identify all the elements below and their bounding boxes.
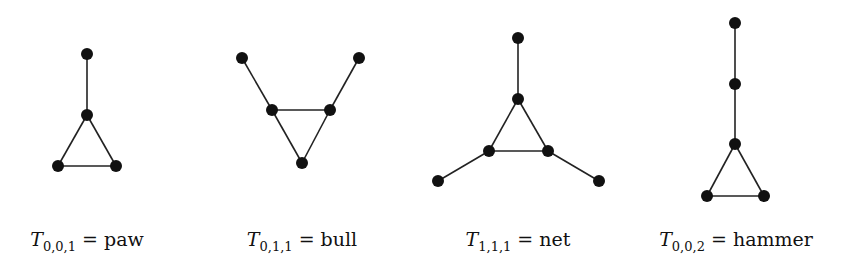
vertex: [512, 32, 524, 44]
vertex: [353, 52, 365, 64]
vertex: [729, 138, 741, 150]
edge: [272, 110, 302, 163]
label-paw: T0,0,1 = paw: [30, 228, 144, 254]
vertex: [701, 190, 713, 202]
vertex: [593, 175, 605, 187]
graph-paw: [52, 48, 122, 172]
graph-name: paw: [104, 228, 144, 250]
vertex: [110, 160, 122, 172]
graph-bull: [236, 52, 365, 169]
edge: [518, 99, 548, 151]
edge: [87, 115, 116, 166]
vertex: [729, 17, 741, 29]
edge: [548, 151, 599, 181]
graph-hammer: [701, 17, 770, 202]
label-net: T1,1,1 = net: [466, 228, 571, 254]
vertex: [512, 93, 524, 105]
edge: [330, 58, 359, 110]
edge: [489, 99, 518, 151]
edge: [242, 58, 272, 110]
vertex: [81, 109, 93, 121]
vertex: [432, 175, 444, 187]
vertex: [52, 160, 64, 172]
vertex: [324, 104, 336, 116]
edge: [58, 115, 87, 166]
vertex: [296, 157, 308, 169]
vertex: [542, 145, 554, 157]
vertex: [483, 145, 495, 157]
edge: [302, 110, 330, 163]
vertex: [729, 78, 741, 90]
edge: [707, 144, 735, 196]
label-hammer: T0,0,2 = hammer: [659, 228, 813, 254]
edge: [438, 151, 489, 181]
vertex: [758, 190, 770, 202]
graph-name: bull: [321, 228, 358, 250]
graph-name: hammer: [733, 228, 813, 250]
label-bull: T0,1,1 = bull: [247, 228, 357, 254]
edge: [735, 144, 764, 196]
vertex: [81, 48, 93, 60]
graph-net: [432, 32, 605, 187]
vertex: [236, 52, 248, 64]
vertex: [266, 104, 278, 116]
graph-name: net: [539, 228, 570, 250]
